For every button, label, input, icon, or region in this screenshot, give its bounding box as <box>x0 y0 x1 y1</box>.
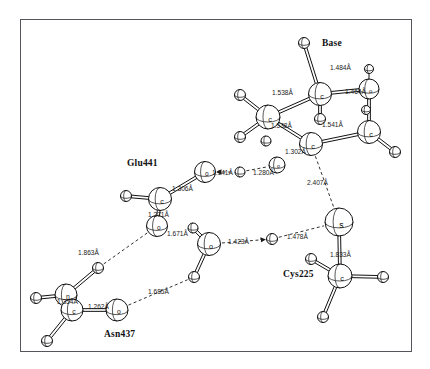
atom-element-symbol: o <box>205 170 209 177</box>
bond-1-863: 1.863Å <box>78 249 99 256</box>
atom-element-symbol: o <box>157 224 161 231</box>
cys225-label: Cys225 <box>283 269 314 279</box>
atom-element-symbol: o <box>209 243 213 251</box>
atom-layer: cocccoocooscnco <box>31 38 401 347</box>
bond-1-423: 1.423Å <box>228 238 249 245</box>
molecule-drawing: cocccoocooscnco <box>0 0 430 369</box>
bond-1-478: 1.478Å <box>287 233 308 240</box>
bond-1-685: 1.685Å <box>148 288 169 295</box>
atom-element-symbol: c <box>311 143 315 151</box>
atom-element-symbol: c <box>369 131 373 139</box>
bond-1-280: 1.280Å <box>253 169 274 176</box>
bond-layer <box>40 46 393 338</box>
atom-element-symbol: o <box>277 163 280 169</box>
atom-element-symbol: c <box>72 308 76 315</box>
atom-o-mid-low: o <box>198 233 221 256</box>
atom-element-symbol: c <box>160 198 164 206</box>
bond-1-141: 1.141Å <box>212 169 233 176</box>
bond-1-484: 1.484Å <box>330 64 351 71</box>
atom-element-symbol: o <box>369 87 373 94</box>
bond-1-833: 1.833Å <box>330 251 351 258</box>
bond-1-302: 1.302Å <box>285 148 306 155</box>
atom-o-glu-lower: o <box>147 216 168 237</box>
atom-h-base-lr2 <box>362 106 371 115</box>
atom-h-cys-2 <box>378 272 389 283</box>
atom-element-symbol: c <box>340 274 344 283</box>
atom-element-symbol: s <box>339 220 344 230</box>
bond-1-262: 1.262Å <box>88 303 109 310</box>
atom-element-symbol: c <box>320 93 324 101</box>
asn437-label: Asn437 <box>104 329 135 339</box>
bond-clow-clr <box>319 132 361 143</box>
atom-h-cys-3 <box>318 312 329 323</box>
hbond-oglu-to-h <box>104 233 148 264</box>
atom-h-omid-low <box>189 272 200 283</box>
atom-h-asn-up <box>93 263 104 274</box>
atom-h-bl-3 <box>261 136 271 146</box>
figure-canvas: cocccoocooscnco BaseGlu441Cys225Asn437 1… <box>0 0 430 369</box>
hydrogen-bond-layer <box>104 156 334 305</box>
bond-1-541: 1.541Å <box>322 121 343 128</box>
bond-1-306: 1.306Å <box>172 185 193 192</box>
atom-h-asn-low <box>42 336 53 347</box>
atom-h-bl-2 <box>235 132 246 143</box>
bond-1-271: 1.271Å <box>148 211 169 218</box>
bond-cl-cu <box>275 96 313 115</box>
bond-cys-h2 <box>349 275 379 278</box>
bond-base-top <box>304 46 319 86</box>
bond-cys-h3 <box>323 283 338 313</box>
bond-1-671: 1.671Å <box>167 230 188 237</box>
bond-1-354: 1.354Å <box>57 298 78 305</box>
atom-h-bl-1 <box>235 90 246 101</box>
atom-c-base-lr: c <box>358 121 381 144</box>
atom-h-omid <box>188 223 198 233</box>
atom-h-base-lr1 <box>390 147 401 158</box>
glu441-label: Glu441 <box>127 158 158 168</box>
bond-s-c <box>338 232 341 267</box>
atom-c-cys: c <box>328 264 352 288</box>
atom-element-symbol: o <box>117 308 121 315</box>
atom-h-asn-left <box>31 293 42 304</box>
bond-2-407: 2.407Å <box>307 179 328 186</box>
atom-h-mid <box>235 167 245 177</box>
atom-s-cys: s <box>325 208 353 236</box>
atom-h-o-base <box>365 65 374 74</box>
bond-1-538b: 1.538Å <box>271 122 292 129</box>
atom-o-asn: o <box>106 299 128 321</box>
bond-1-464: 1.464Å <box>345 88 366 95</box>
atom-c-glu: c <box>149 188 172 211</box>
base-label: Base <box>322 38 342 48</box>
atom-h-base-top <box>299 38 310 49</box>
atom-c-base-upper: c <box>309 83 332 106</box>
bond-1-538a: 1.538Å <box>272 89 293 96</box>
atom-h-glu-left <box>121 191 132 202</box>
atom-h-cys-1 <box>306 254 317 265</box>
atom-h-bridge <box>267 234 278 245</box>
